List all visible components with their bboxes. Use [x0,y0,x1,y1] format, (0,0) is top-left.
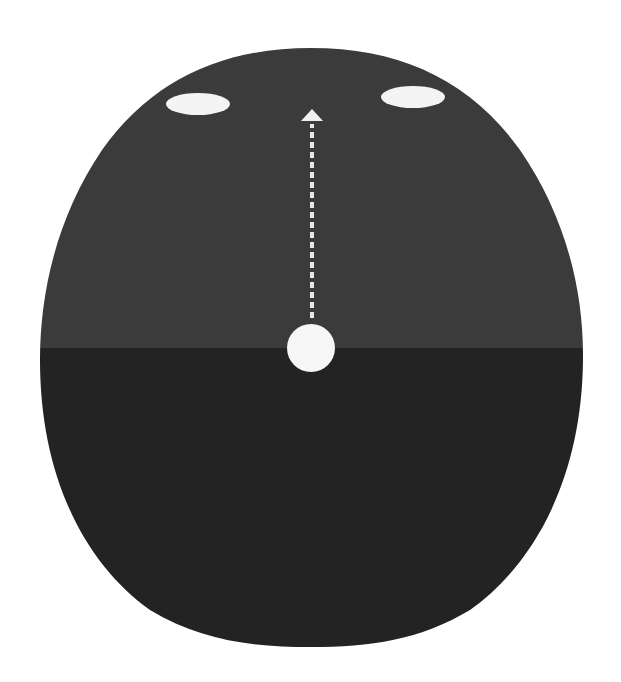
left-eye-marker [166,93,230,115]
diagram-canvas [0,0,621,682]
diagram-stage [0,0,621,682]
right-eye-marker [381,86,445,108]
center-dot [287,324,335,372]
